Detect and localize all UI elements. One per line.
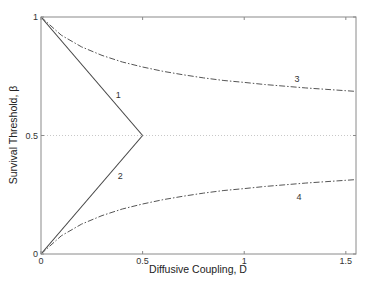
curve-label-3: 3	[295, 74, 300, 84]
x-tick-label: 1.5	[340, 256, 353, 266]
curve-label-4: 4	[297, 192, 302, 202]
x-axis-label: Diffusive Coupling, D	[149, 263, 247, 275]
x-tick-label: 0.5	[136, 256, 149, 266]
x-tick-label: 0	[38, 256, 43, 266]
y-tick-label: 0.5	[25, 131, 38, 141]
curve-label-1: 1	[116, 90, 121, 100]
y-axis-label: Survival Threshold, β	[7, 86, 19, 185]
y-tick-label: 1	[33, 12, 38, 22]
curve-label-2: 2	[118, 171, 123, 181]
y-tick-label: 0	[33, 249, 38, 259]
chart: 00.511.500.51 1234 Diffusive Coupling, D…	[0, 0, 369, 286]
